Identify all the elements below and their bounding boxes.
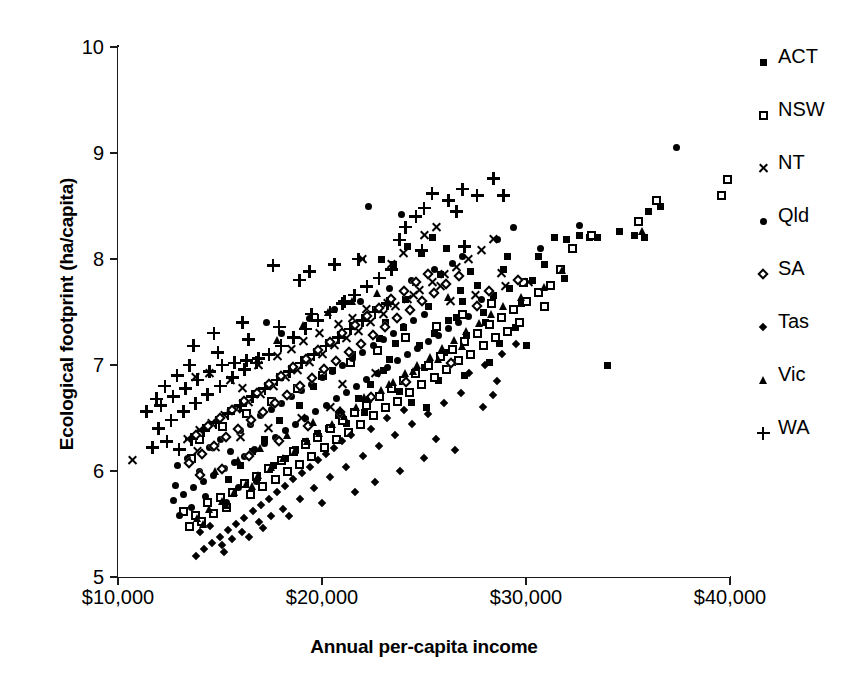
- data-point-act: [355, 395, 362, 402]
- data-point-vic: [283, 431, 291, 439]
- data-point-wa: [352, 253, 365, 266]
- data-point-nsw: [301, 440, 310, 449]
- data-point-vic: [389, 378, 397, 386]
- data-point-nsw: [485, 320, 494, 329]
- data-point-wa: [267, 259, 280, 272]
- data-point-qld: [231, 459, 238, 466]
- legend-item-sa[interactable]: SA: [748, 256, 848, 309]
- data-point-tas: [244, 532, 252, 540]
- data-point-tas: [208, 539, 216, 547]
- data-point-nt: [237, 383, 248, 394]
- data-point-nt: [333, 319, 344, 330]
- data-point-nsw: [264, 464, 273, 473]
- data-point-nsw: [240, 479, 249, 488]
- data-point-vic: [475, 319, 483, 327]
- data-point-qld: [394, 357, 401, 364]
- data-point-wa: [171, 369, 184, 382]
- data-point-qld: [343, 389, 350, 396]
- data-point-nsw: [246, 490, 255, 499]
- filled-circle-icon: [760, 218, 767, 225]
- data-point-act: [343, 420, 350, 427]
- data-point-qld: [288, 393, 295, 400]
- data-point-sa: [380, 321, 391, 332]
- y-tick-mark: [110, 46, 118, 48]
- data-point-nt: [243, 397, 254, 408]
- data-point-tas: [489, 390, 497, 398]
- data-point-nsw: [195, 435, 204, 444]
- filled-diamond-icon: [759, 323, 767, 331]
- data-point-tas: [220, 547, 228, 555]
- data-point-sa: [263, 378, 274, 389]
- data-point-nt: [204, 368, 215, 379]
- data-point-tas: [342, 463, 350, 471]
- data-point-wa: [487, 172, 500, 185]
- legend-item-wa[interactable]: WA: [748, 415, 848, 468]
- data-point-qld: [410, 317, 417, 324]
- data-point-vic: [303, 437, 311, 445]
- data-point-act: [225, 476, 232, 483]
- filled-triangle-icon: [759, 376, 767, 384]
- data-point-nt: [427, 277, 438, 288]
- data-point-tas: [224, 526, 232, 534]
- legend-item-nsw[interactable]: NSW: [748, 97, 848, 150]
- legend-label: NT: [778, 151, 805, 173]
- data-point-nt: [325, 402, 336, 413]
- data-point-nsw: [267, 397, 276, 406]
- data-point-qld: [223, 499, 230, 506]
- data-point-act: [376, 335, 383, 342]
- legend-marker-cross-x-icon: [756, 161, 770, 175]
- data-point-wa: [442, 194, 455, 207]
- data-point-wa: [307, 348, 320, 361]
- data-point-nt: [523, 277, 534, 288]
- data-point-act: [296, 402, 303, 409]
- legend-item-nt[interactable]: NT: [748, 150, 848, 203]
- legend-label: SA: [778, 257, 805, 279]
- data-point-qld: [196, 468, 203, 475]
- legend-item-qld[interactable]: Qld: [748, 203, 848, 256]
- data-point-sa: [318, 364, 329, 375]
- data-point-nsw: [454, 356, 463, 365]
- legend-item-vic[interactable]: Vic: [748, 362, 848, 415]
- data-point-wa: [207, 327, 220, 340]
- data-point-nsw: [519, 278, 528, 287]
- data-point-act: [604, 362, 611, 369]
- legend-item-act[interactable]: ACT: [748, 44, 848, 97]
- data-point-vic: [348, 297, 356, 305]
- data-point-nsw: [369, 411, 378, 420]
- data-point-qld: [312, 408, 319, 415]
- data-point-act: [314, 430, 321, 437]
- data-point-nt: [470, 290, 481, 301]
- data-point-wa: [399, 221, 412, 234]
- data-point-wa: [187, 339, 200, 352]
- data-point-act: [396, 388, 403, 395]
- data-point-sa: [441, 279, 452, 290]
- data-point-nsw: [218, 422, 227, 431]
- data-point-sa: [214, 412, 225, 423]
- data-point-act: [453, 314, 460, 321]
- data-point-qld: [241, 453, 248, 460]
- data-point-vic: [409, 367, 417, 375]
- data-point-wa: [275, 339, 288, 352]
- data-point-nt: [378, 309, 389, 320]
- data-point-nsw: [228, 488, 237, 497]
- legend-label: Vic: [778, 363, 805, 385]
- data-point-wa: [373, 272, 386, 285]
- data-point-act: [486, 359, 493, 366]
- data-point-nsw: [373, 346, 382, 355]
- data-point-qld: [465, 313, 472, 320]
- x-tick-label: $40,000: [660, 586, 800, 608]
- data-point-nsw: [479, 341, 488, 350]
- data-point-nt: [496, 268, 507, 279]
- data-point-tas: [375, 441, 383, 449]
- data-point-act: [325, 425, 332, 432]
- data-point-wa: [336, 297, 349, 310]
- data-point-vic: [401, 369, 409, 377]
- data-point-qld: [380, 336, 387, 343]
- data-point-tas: [456, 388, 464, 396]
- data-point-qld: [363, 376, 370, 383]
- data-point-qld: [170, 497, 177, 504]
- data-point-vic: [462, 327, 470, 335]
- legend-item-tas[interactable]: Tas: [748, 309, 848, 362]
- data-point-act: [563, 236, 570, 243]
- data-point-nsw: [723, 175, 732, 184]
